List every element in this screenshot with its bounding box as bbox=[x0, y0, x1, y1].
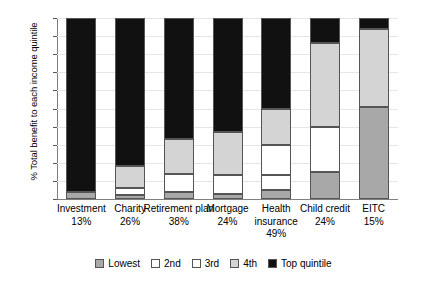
bar-segment-4th[interactable] bbox=[213, 132, 243, 175]
bar-segment-4th[interactable] bbox=[164, 139, 194, 173]
bar-segment-3rd[interactable] bbox=[261, 145, 291, 176]
bar-segment-2nd[interactable] bbox=[213, 175, 243, 193]
legend-label: 3rd bbox=[205, 258, 219, 269]
bar-investment[interactable] bbox=[66, 18, 96, 199]
bar-segment-top-quintile[interactable] bbox=[213, 18, 243, 132]
bar-segment-4th[interactable] bbox=[359, 29, 389, 107]
y-tick-mark-0 bbox=[53, 199, 57, 200]
y-tick-mark-90 bbox=[53, 36, 57, 37]
bar-segment-2nd[interactable] bbox=[261, 175, 291, 189]
legend-item-2nd[interactable]: 2nd bbox=[151, 258, 181, 269]
bar-charity[interactable] bbox=[115, 18, 145, 199]
y-tick-mark-50 bbox=[53, 109, 57, 110]
bar-segment-3rd[interactable] bbox=[310, 127, 340, 172]
legend-label: Top quintile bbox=[281, 258, 332, 269]
bar-segment-2nd[interactable] bbox=[115, 188, 145, 195]
bar-segment-top-quintile[interactable] bbox=[359, 18, 389, 29]
legend-item-3rd[interactable]: 3rd bbox=[192, 258, 219, 269]
plot-area: 0102030405060708090100 bbox=[57, 18, 398, 199]
x-label-name: EITC bbox=[362, 203, 385, 214]
bar-mortgage[interactable] bbox=[213, 18, 243, 199]
legend-swatch-icon bbox=[230, 259, 239, 268]
bar-segment-2nd[interactable] bbox=[164, 174, 194, 192]
bar-segment-lowest[interactable] bbox=[261, 190, 291, 199]
gridline-0 bbox=[57, 199, 398, 200]
bar-segment-top-quintile[interactable] bbox=[164, 18, 194, 139]
bar-health-insurance[interactable] bbox=[261, 18, 291, 199]
bar-segment-top-quintile[interactable] bbox=[66, 18, 96, 192]
bar-retirement-plan[interactable] bbox=[164, 18, 194, 199]
bar-child-credit[interactable] bbox=[310, 18, 340, 199]
y-tick-mark-100 bbox=[53, 18, 57, 19]
bar-segment-lowest[interactable] bbox=[359, 107, 389, 199]
chart-legend: Lowest2nd3rd4thTop quintile bbox=[0, 258, 427, 269]
bar-eitc[interactable] bbox=[359, 18, 389, 199]
legend-label: Lowest bbox=[108, 258, 140, 269]
bar-segment-top-quintile[interactable] bbox=[310, 18, 340, 43]
y-tick-mark-20 bbox=[53, 163, 57, 164]
legend-swatch-icon bbox=[151, 259, 160, 268]
bar-segment-4th[interactable] bbox=[310, 43, 340, 126]
y-tick-mark-60 bbox=[53, 90, 57, 91]
legend-item-top-quintile[interactable]: Top quintile bbox=[268, 258, 332, 269]
bar-segment-top-quintile[interactable] bbox=[115, 18, 145, 166]
y-axis-title: % Total benefit to each income quintile bbox=[28, 7, 39, 197]
y-tick-mark-30 bbox=[53, 145, 57, 146]
bar-segment-lowest[interactable] bbox=[66, 192, 96, 199]
x-label-percent: 49% bbox=[239, 228, 313, 241]
legend-label: 2nd bbox=[164, 258, 181, 269]
bar-segment-lowest[interactable] bbox=[213, 194, 243, 199]
y-tick-mark-80 bbox=[53, 54, 57, 55]
bar-segment-4th[interactable] bbox=[261, 109, 291, 145]
bar-segment-lowest[interactable] bbox=[164, 192, 194, 199]
bar-segment-lowest[interactable] bbox=[115, 195, 145, 199]
y-tick-mark-70 bbox=[53, 72, 57, 73]
stacked-bar-chart: % Total benefit to each income quintile … bbox=[0, 0, 427, 286]
bar-segment-lowest[interactable] bbox=[310, 172, 340, 199]
x-label-percent: 15% bbox=[337, 216, 411, 229]
bar-segment-4th[interactable] bbox=[115, 166, 145, 188]
legend-swatch-icon bbox=[192, 259, 201, 268]
y-tick-mark-10 bbox=[53, 181, 57, 182]
legend-item-4th[interactable]: 4th bbox=[230, 258, 257, 269]
legend-swatch-icon bbox=[268, 259, 277, 268]
bar-segment-top-quintile[interactable] bbox=[261, 18, 291, 109]
legend-item-lowest[interactable]: Lowest bbox=[95, 258, 140, 269]
y-tick-mark-40 bbox=[53, 127, 57, 128]
legend-swatch-icon bbox=[95, 259, 104, 268]
legend-label: 4th bbox=[243, 258, 257, 269]
x-axis-label-eitc: EITC15% bbox=[337, 203, 411, 228]
